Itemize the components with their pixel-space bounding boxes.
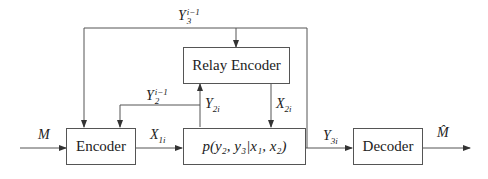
label-x1i-base: X bbox=[150, 127, 159, 142]
label-m-hat: M̂ bbox=[437, 126, 449, 140]
label-y2-past-base: Y bbox=[146, 88, 154, 103]
label-x1i: X1i bbox=[150, 128, 166, 145]
channel-block: p(y₂, y₃|x₁, x₂) bbox=[183, 128, 306, 165]
relay-encoder-label: Relay Encoder bbox=[192, 57, 281, 74]
label-x2i-base: X bbox=[276, 96, 285, 111]
label-x1i-sub: 1i bbox=[159, 135, 166, 145]
label-y3-past-base: Y bbox=[178, 8, 186, 23]
label-y3i: Y3i bbox=[323, 129, 338, 146]
decoder-label: Decoder bbox=[363, 138, 414, 155]
label-m-text: M bbox=[38, 127, 50, 142]
label-y3-past: Yi−13 bbox=[178, 8, 200, 26]
label-y2i-base: Y bbox=[205, 96, 213, 111]
encoder-block: Encoder bbox=[66, 128, 136, 165]
label-y2-past-sub: 2 bbox=[155, 97, 168, 106]
label-x2i-sub: 2i bbox=[285, 104, 292, 114]
label-y3-past-sub: 3 bbox=[187, 17, 200, 26]
label-y2-past-scripts: i−12 bbox=[155, 88, 168, 106]
label-m: M bbox=[38, 128, 50, 142]
label-y3i-sub: 3i bbox=[331, 136, 338, 146]
label-y2i-sub: 2i bbox=[213, 104, 220, 114]
label-y3i-base: Y bbox=[323, 128, 331, 143]
label-m-hat-text: M̂ bbox=[437, 125, 449, 140]
y2-feedback-to-encoder bbox=[120, 105, 200, 127]
label-x2i: X2i bbox=[276, 97, 292, 114]
relay-encoder-block: Relay Encoder bbox=[183, 47, 290, 84]
encoder-label: Encoder bbox=[76, 138, 126, 155]
label-y2-past: Yi−12 bbox=[146, 88, 168, 106]
label-y3-past-scripts: i−13 bbox=[187, 8, 200, 26]
decoder-block: Decoder bbox=[353, 128, 423, 165]
channel-label: p(y₂, y₃|x₁, x₂) bbox=[202, 138, 286, 155]
label-y2i: Y2i bbox=[205, 97, 220, 114]
